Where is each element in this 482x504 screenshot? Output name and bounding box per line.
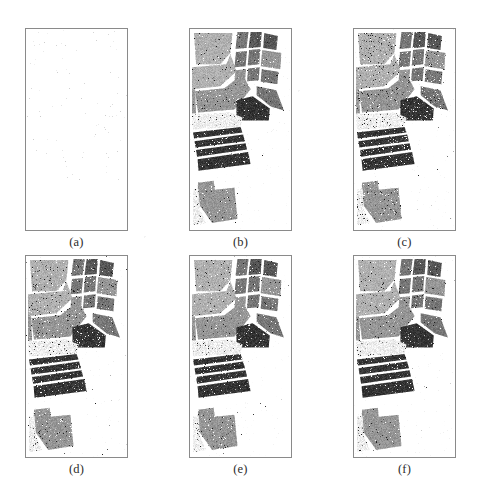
panel-f: (f) xyxy=(353,255,456,480)
panel-b-image xyxy=(190,29,291,230)
panel-f-caption: (f) xyxy=(353,462,456,477)
panel-a-image xyxy=(26,29,127,230)
panel-d: (d) xyxy=(25,255,128,480)
panel-c-frame xyxy=(353,28,456,231)
panel-b-frame xyxy=(189,28,292,231)
panel-e: (e) xyxy=(189,255,292,480)
panel-c: (c) xyxy=(353,28,456,253)
panel-f-image xyxy=(354,256,455,457)
panel-a: (a) xyxy=(25,28,128,253)
panel-c-image xyxy=(354,29,455,230)
panel-b-caption: (b) xyxy=(189,235,292,250)
panel-e-image xyxy=(190,256,291,457)
panel-a-caption: (a) xyxy=(25,235,128,250)
panel-b: (b) xyxy=(189,28,292,253)
panel-a-frame xyxy=(25,28,128,231)
figure-panel-grid: (a)(b)(c)(d)(e)(f) xyxy=(0,0,482,504)
panel-e-caption: (e) xyxy=(189,462,292,477)
panel-d-frame xyxy=(25,255,128,458)
panel-d-image xyxy=(26,256,127,457)
panel-d-caption: (d) xyxy=(25,462,128,477)
panel-f-frame xyxy=(353,255,456,458)
panel-e-frame xyxy=(189,255,292,458)
panel-c-caption: (c) xyxy=(353,235,456,250)
